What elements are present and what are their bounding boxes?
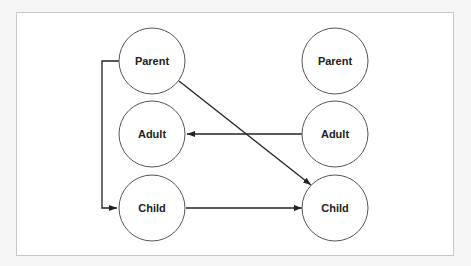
node-label: Child: [138, 202, 166, 214]
node-right-adult[interactable]: Adult: [302, 101, 368, 167]
node-right-child[interactable]: Child: [302, 175, 368, 241]
node-left-child[interactable]: Child: [119, 175, 185, 241]
edge-parent-to-child-elbow: [102, 61, 119, 208]
node-right-parent[interactable]: Parent: [302, 28, 368, 94]
node-label: Child: [321, 202, 349, 214]
node-label: Adult: [321, 128, 349, 140]
edge-parent-to-right-child: [179, 81, 311, 185]
node-left-parent[interactable]: Parent: [119, 28, 185, 94]
node-label: Parent: [135, 55, 170, 67]
node-label: Parent: [318, 55, 353, 67]
node-left-adult[interactable]: Adult: [119, 101, 185, 167]
node-label: Adult: [138, 128, 166, 140]
diagram-canvas: Parent Adult Child Parent Adult Child: [0, 0, 471, 266]
